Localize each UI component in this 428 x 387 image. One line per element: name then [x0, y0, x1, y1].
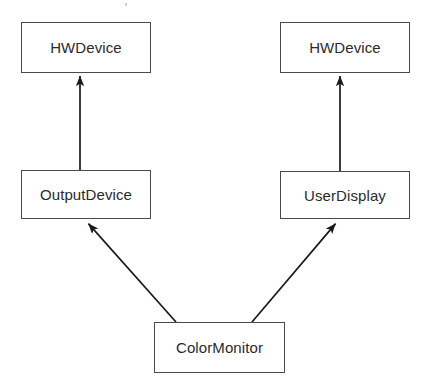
class-name-label: ColorMonitor: [176, 340, 263, 355]
class-box-hwdevice-right[interactable]: HWDevice: [280, 22, 410, 73]
class-diagram-canvas: HWDevice HWDevice OutputDevice UserDispl…: [0, 0, 428, 387]
class-box-hwdevice-left[interactable]: HWDevice: [21, 22, 151, 73]
class-name-label: HWDevice: [309, 40, 381, 55]
class-box-colormonitor[interactable]: ColorMonitor: [154, 322, 285, 373]
class-name-label: HWDevice: [50, 40, 122, 55]
edge-colormonitor-to-outputdevice: [88, 224, 176, 322]
class-box-userdisplay[interactable]: UserDisplay: [280, 171, 410, 219]
class-name-label: UserDisplay: [304, 188, 386, 203]
class-name-label: OutputDevice: [40, 187, 132, 202]
edge-colormonitor-to-userdisplay: [252, 224, 336, 322]
class-box-outputdevice[interactable]: OutputDevice: [21, 170, 151, 219]
scan-artifact-speck: [125, 3, 127, 6]
